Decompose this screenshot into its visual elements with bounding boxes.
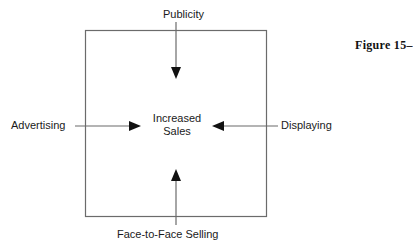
figure-caption: Figure 15– (355, 38, 413, 53)
increased-sales-line-2: Sales (146, 125, 208, 138)
label-displaying: Displaying (281, 119, 332, 132)
label-advertising: Advertising (11, 119, 65, 132)
displaying-arrow-head-icon (212, 121, 224, 131)
advertising-arrow-head-icon (129, 121, 141, 131)
label-publicity: Publicity (163, 8, 204, 21)
face-to-face-arrow-head-icon (171, 169, 181, 181)
label-face-to-face-selling: Face-to-Face Selling (117, 228, 219, 241)
figure-canvas: Publicity Advertising Displaying Face-to… (0, 0, 413, 249)
label-increased-sales: Increased Sales (146, 112, 208, 137)
publicity-arrow-head-icon (171, 67, 181, 79)
increased-sales-line-1: Increased (146, 112, 208, 125)
